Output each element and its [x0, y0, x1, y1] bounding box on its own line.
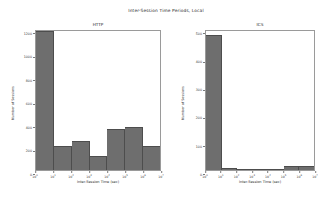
y-tick-mark — [33, 57, 35, 58]
bar — [206, 35, 222, 170]
x-tick-mark — [107, 171, 108, 173]
x-tick-mark — [35, 171, 36, 173]
x-tick-label: 102 — [68, 174, 74, 179]
y-tick: 400 — [179, 60, 205, 64]
y-tick-mark — [203, 118, 205, 119]
bar — [125, 127, 143, 170]
bar — [90, 156, 108, 170]
bar — [36, 31, 54, 170]
bar — [143, 146, 160, 170]
y-tick-mark — [33, 127, 35, 128]
y-tick: 1200 — [9, 32, 35, 36]
y-tick: 0 — [9, 173, 35, 177]
x-tick: 105 — [281, 171, 287, 179]
x-tick: 100 — [202, 171, 208, 179]
x-tick-mark — [299, 171, 300, 173]
y-tick-mark — [203, 146, 205, 147]
x-tick-mark — [89, 171, 90, 173]
x-tick-label: 104 — [104, 174, 110, 179]
x-tick-label: 105 — [122, 174, 128, 179]
y-tick-label: 1200 — [24, 32, 34, 36]
x-tick-mark — [315, 171, 316, 173]
y-tick: 500 — [179, 32, 205, 36]
y-tick-mark — [203, 90, 205, 91]
y-tick-mark — [33, 33, 35, 34]
y-tick-label: 1000 — [24, 55, 34, 59]
bar — [268, 169, 284, 170]
bar — [72, 141, 90, 170]
y-axis-label-http: Number of Sessions — [11, 73, 15, 133]
y-tick-mark — [33, 80, 35, 81]
x-tick-label: 101 — [50, 174, 56, 179]
y-tick-label: 100 — [196, 145, 203, 149]
x-tick: 107 — [312, 171, 318, 179]
x-tick-mark — [53, 171, 54, 173]
y-tick-label: 400 — [26, 126, 33, 130]
x-tick-label: 107 — [158, 174, 164, 179]
x-tick-mark — [125, 171, 126, 173]
y-tick-mark — [203, 62, 205, 63]
x-tick-mark — [161, 171, 162, 173]
x-axis-label-http: Inter-Session Time (sec) — [35, 180, 161, 184]
x-tick-label: 107 — [312, 174, 318, 179]
x-tick-label: 103 — [249, 174, 255, 179]
y-tick-label: 800 — [26, 79, 33, 83]
x-tick-mark — [71, 171, 72, 173]
x-tick-mark — [268, 171, 269, 173]
x-tick-label: 100 — [202, 174, 208, 179]
bar — [222, 168, 238, 170]
x-tick: 104 — [265, 171, 271, 179]
x-tick: 101 — [218, 171, 224, 179]
y-tick: 0 — [179, 173, 205, 177]
y-tick-label: 200 — [26, 149, 33, 153]
bar — [54, 146, 72, 170]
plot-area-ics — [205, 30, 315, 171]
x-tick-mark — [252, 171, 253, 173]
bar-series-http — [36, 31, 160, 170]
x-tick-label: 103 — [86, 174, 92, 179]
x-tick: 106 — [296, 171, 302, 179]
x-tick: 103 — [86, 171, 92, 179]
y-tick-mark — [203, 33, 205, 34]
x-tick: 107 — [158, 171, 164, 179]
x-tick-mark — [143, 171, 144, 173]
x-tick-label: 105 — [281, 174, 287, 179]
y-tick-label: 500 — [196, 32, 203, 36]
y-tick-label: 200 — [196, 116, 203, 120]
x-tick-label: 101 — [218, 174, 224, 179]
plot-area-http — [35, 30, 161, 171]
y-tick-label: 300 — [196, 88, 203, 92]
figure-canvas: Inter-Session Time Periods, Local HTTP 0… — [0, 0, 332, 199]
y-axis-label-ics: Number of Sessions — [181, 73, 185, 133]
y-tick-label: 400 — [196, 60, 203, 64]
subplot-title-ics: ICS — [205, 22, 315, 27]
subplot-ics: ICS 0100200300400500 1001011021031041051… — [205, 30, 315, 171]
bar-series-ics — [206, 31, 314, 170]
bar — [107, 129, 125, 170]
x-tick: 100 — [32, 171, 38, 179]
y-tick: 200 — [9, 149, 35, 153]
y-tick-mark — [33, 104, 35, 105]
x-tick-mark — [220, 171, 221, 173]
x-tick-label: 102 — [234, 174, 240, 179]
subplot-http: HTTP 020040060080010001200 1001011021031… — [35, 30, 161, 171]
bar — [284, 166, 300, 170]
bar — [237, 169, 253, 170]
x-tick-mark — [236, 171, 237, 173]
x-tick-label: 100 — [32, 174, 38, 179]
x-tick: 104 — [104, 171, 110, 179]
x-tick-mark — [283, 171, 284, 173]
figure-suptitle: Inter-Session Time Periods, Local — [0, 8, 332, 13]
x-tick-label: 104 — [265, 174, 271, 179]
x-tick: 106 — [140, 171, 146, 179]
y-tick: 100 — [179, 145, 205, 149]
x-tick: 102 — [68, 171, 74, 179]
x-tick: 103 — [249, 171, 255, 179]
x-tick-label: 106 — [296, 174, 302, 179]
y-tick-mark — [33, 151, 35, 152]
x-axis-label-ics: Inter-Session Time (sec) — [205, 180, 315, 184]
subplot-title-http: HTTP — [35, 22, 161, 27]
y-tick: 1000 — [9, 55, 35, 59]
x-tick: 102 — [234, 171, 240, 179]
y-tick-label: 600 — [26, 102, 33, 106]
